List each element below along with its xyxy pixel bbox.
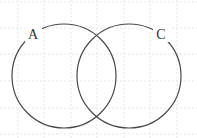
set-a-label: A bbox=[28, 27, 39, 42]
background-grid bbox=[0, 0, 197, 138]
venn-diagram: A C bbox=[0, 0, 197, 138]
set-c-label: C bbox=[156, 27, 165, 42]
